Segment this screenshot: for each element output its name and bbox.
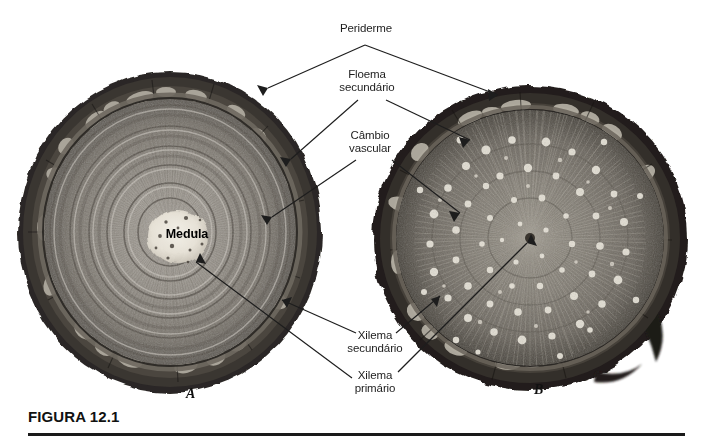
panel-letter-a: A [186,386,195,402]
figure-caption-title: FIGURA 12.1 [28,408,119,425]
annotation-xilema-secundario: Xilema secundário [337,329,413,354]
panel-letter-b: B [534,382,543,398]
annotation-periderme: Periderme [323,22,409,35]
caption-divider [28,433,685,436]
annotation-floema-secundario: Floema secundário [330,68,404,93]
annotation-medula: Medula [152,228,222,241]
annotation-xilema-primario: Xilema primário [340,369,410,394]
annotation-cambio-vascular: Câmbio vascular [336,129,404,154]
figure-12-1: Periderme Floema secundário Câmbio vascu… [0,0,713,440]
